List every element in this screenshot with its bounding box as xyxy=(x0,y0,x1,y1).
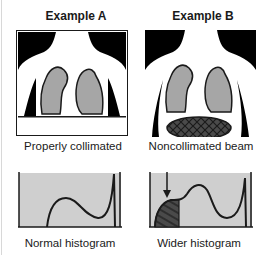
example-b-histogram-caption: Wider histogram xyxy=(134,237,264,249)
example-b-image-caption: Noncollimated beam xyxy=(136,140,266,152)
example-a-histogram xyxy=(18,172,122,228)
example-b-title: Example B xyxy=(143,9,263,23)
page-edge-rule xyxy=(1,0,2,255)
example-a-chest-image xyxy=(16,30,128,136)
example-b-histogram xyxy=(149,172,253,228)
example-b-chest-image xyxy=(145,30,256,137)
example-a-histogram-caption: Normal histogram xyxy=(5,237,135,249)
example-a-title: Example A xyxy=(16,9,136,23)
example-a-image-caption: Properly collimated xyxy=(8,140,138,152)
hatched-abdomen-region xyxy=(167,117,231,137)
